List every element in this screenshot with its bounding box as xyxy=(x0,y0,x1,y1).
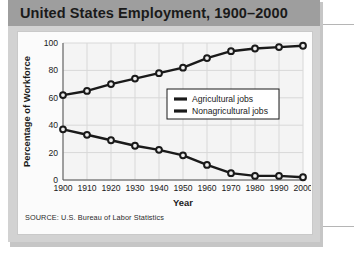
data-point-agricultural-jobs-1910 xyxy=(84,132,90,138)
data-point-agricultural-jobs-2000 xyxy=(300,174,306,180)
page-background-strip xyxy=(318,0,354,256)
x-tick-label-1960: 1960 xyxy=(197,183,216,193)
x-tick-label-1920: 1920 xyxy=(101,183,120,193)
x-axis-title: Year xyxy=(173,197,193,208)
card-shadow-right xyxy=(320,2,323,247)
y-tick-label-20: 20 xyxy=(48,148,58,158)
data-point-agricultural-jobs-1940 xyxy=(156,147,162,153)
x-tick-label-1940: 1940 xyxy=(149,183,168,193)
x-tick-label-1990: 1990 xyxy=(269,183,288,193)
x-tick-label-1980: 1980 xyxy=(245,183,264,193)
data-point-agricultural-jobs-1990 xyxy=(276,173,282,179)
data-point-nonagricultural-jobs-1930 xyxy=(132,76,138,82)
y-axis-title: Percentage of Workforce xyxy=(21,56,32,167)
figure-title: United States Employment, 1900–2000 xyxy=(20,5,288,21)
x-tick-label-1950: 1950 xyxy=(173,183,192,193)
data-point-agricultural-jobs-1980 xyxy=(252,173,258,179)
data-point-nonagricultural-jobs-1970 xyxy=(228,48,234,54)
chart-area: 0204060801001900191019201930194019501960… xyxy=(17,31,311,209)
legend-label-agricultural-jobs: Agricultural jobs xyxy=(192,94,253,104)
data-point-nonagricultural-jobs-1920 xyxy=(108,81,114,87)
y-tick-label-100: 100 xyxy=(44,38,59,48)
x-tick-label-1900: 1900 xyxy=(53,183,72,193)
x-tick-label-1910: 1910 xyxy=(77,183,96,193)
data-point-nonagricultural-jobs-1990 xyxy=(276,44,282,50)
data-point-nonagricultural-jobs-1950 xyxy=(180,65,186,71)
y-tick-label-40: 40 xyxy=(48,120,58,130)
data-point-nonagricultural-jobs-1910 xyxy=(84,88,90,94)
data-point-agricultural-jobs-1930 xyxy=(132,143,138,149)
screenshot-root: United States Employment, 1900–2000 0204… xyxy=(0,0,354,256)
data-point-agricultural-jobs-1900 xyxy=(60,126,66,132)
data-point-agricultural-jobs-1960 xyxy=(204,162,210,168)
data-point-agricultural-jobs-1950 xyxy=(180,152,186,158)
page-rule-bottom xyxy=(322,226,354,227)
data-point-nonagricultural-jobs-1980 xyxy=(252,46,258,52)
data-point-nonagricultural-jobs-1960 xyxy=(204,55,210,61)
legend-label-nonagricultural-jobs: Nonagricultural jobs xyxy=(192,106,268,116)
x-tick-label-2000: 2000 xyxy=(293,183,311,193)
data-point-nonagricultural-jobs-1900 xyxy=(60,92,66,98)
source-note: SOURCE: U.S. Bureau of Labor Statistics xyxy=(25,213,164,222)
x-tick-label-1970: 1970 xyxy=(221,183,240,193)
card-shadow-bottom xyxy=(10,242,322,247)
page-rule-top xyxy=(322,24,354,25)
data-point-agricultural-jobs-1970 xyxy=(228,170,234,176)
y-tick-label-60: 60 xyxy=(48,93,58,103)
data-point-nonagricultural-jobs-2000 xyxy=(300,43,306,49)
data-point-nonagricultural-jobs-1940 xyxy=(156,70,162,76)
figure-title-bar: United States Employment, 1900–2000 xyxy=(8,0,320,26)
employment-line-chart: 0204060801001900191019201930194019501960… xyxy=(17,31,311,209)
y-tick-label-80: 80 xyxy=(48,65,58,75)
data-point-agricultural-jobs-1920 xyxy=(108,137,114,143)
x-tick-label-1930: 1930 xyxy=(125,183,144,193)
